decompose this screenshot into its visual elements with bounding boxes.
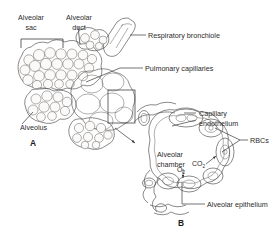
- respiratory-bronchiole-label: Respiratory bronchiole: [148, 31, 220, 40]
- figure-canvas: Alveolar sac Alveolar duct Respiratory b…: [0, 0, 279, 242]
- co2-label: CO2: [192, 160, 206, 169]
- rbcs-label: RBCs: [250, 136, 269, 145]
- capillary-endothelium-label-line2: endothelium: [199, 119, 238, 128]
- co2-arrow: [206, 156, 216, 164]
- alveolar-epithelium-leader: [182, 182, 205, 204]
- panel-a-label: A: [30, 138, 36, 148]
- alveolar-duct-label-line1: Alveolar: [66, 13, 93, 22]
- alveolar-duct-label-line2: duct: [72, 23, 86, 32]
- alveolar-sac-label-line1: Alveolar: [18, 13, 45, 22]
- alveolus-lobe-lower-right: [69, 118, 115, 150]
- capillary-endothelium-label-line1: Capillary: [199, 109, 227, 118]
- alveolar-chamber-label-line1: Alveolar: [157, 150, 184, 159]
- alveolus-label: Alveolus: [20, 123, 48, 132]
- alveolar-sac-label-line2: sac: [25, 23, 37, 32]
- alveolus-lobe-lower-left: [25, 88, 76, 124]
- panel-b-label: B: [178, 218, 184, 228]
- panel-b-connector-arrow: [115, 128, 135, 143]
- alveoli-anatomy-figure: Alveolar sac Alveolar duct Respiratory b…: [0, 0, 279, 242]
- pulmonary-capillaries-label: Pulmonary capillaries: [145, 64, 214, 73]
- capillary-inlet-tube: [134, 102, 176, 125]
- alveolar-sac-bracket: [21, 39, 63, 48]
- alveolar-epithelium-label: Alveolar epithelium: [207, 200, 268, 209]
- respiratory-bronchiole-shape: [103, 18, 135, 57]
